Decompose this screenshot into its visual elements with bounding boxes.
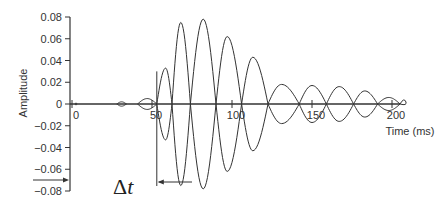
lobe-upper: [326, 87, 353, 104]
arrowhead-left-icon: [158, 180, 164, 185]
y-tick-label: −0.02: [34, 120, 62, 132]
x-tick-label: 50: [150, 109, 162, 121]
y-tick-label: 0: [56, 98, 62, 110]
lobe-lower: [354, 104, 378, 117]
y-tick-label: 0.02: [41, 76, 62, 88]
lobe-upper: [378, 97, 400, 104]
lobe-upper: [216, 37, 242, 104]
lobe-upper: [172, 22, 190, 104]
lobe-lower: [326, 104, 353, 121]
lobe-upper: [268, 84, 299, 104]
x-axis-label: Time (ms): [385, 125, 434, 137]
y-tick-label: −0.04: [34, 142, 62, 154]
arrowhead-right-icon: [63, 178, 69, 183]
lobe-lower: [190, 104, 216, 189]
y-axis-label: Amplitude: [17, 69, 29, 118]
lobe-upper: [242, 57, 268, 104]
y-tick-label: −0.06: [34, 163, 62, 175]
x-axis: 050100150200: [70, 100, 405, 121]
y-tick-label: −0.08: [34, 185, 62, 197]
delta-t-label: Δt: [113, 174, 134, 199]
y-axis: 0.080.060.040.020−0.02−0.04−0.06−0.08: [34, 11, 70, 197]
lobe-lower: [242, 104, 268, 151]
lobe-upper: [157, 68, 172, 104]
lobe-upper: [138, 99, 157, 104]
lobe-upper: [299, 86, 326, 104]
delta-symbol: Δ: [113, 174, 127, 199]
waveform-chart: 0.080.060.040.020−0.02−0.04−0.06−0.08 05…: [0, 0, 446, 208]
lobe-upper: [190, 19, 216, 104]
y-tick-label: 0.04: [41, 55, 62, 67]
lobe-lower: [268, 104, 299, 124]
y-tick-label: 0.08: [41, 11, 62, 23]
y-tick-label: 0.06: [41, 33, 62, 45]
lobe-upper: [354, 91, 378, 104]
end-loop: [400, 100, 406, 105]
delta-variable: t: [127, 174, 134, 199]
x-tick-label: 0: [73, 109, 79, 121]
lobe-lower: [172, 104, 190, 186]
